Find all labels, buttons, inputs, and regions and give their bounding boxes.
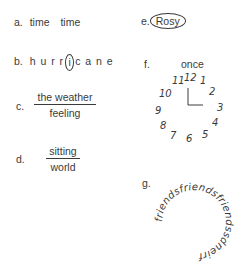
clock-number-6: 6: [186, 133, 192, 144]
clock-number-3: 3: [217, 102, 223, 113]
clock-number-1: 1: [200, 75, 206, 86]
puzzle-a-word1: time: [30, 16, 50, 28]
puzzle-c-fraction: the weather feeling: [34, 91, 96, 119]
puzzle-d-numerator: sitting: [46, 145, 80, 159]
puzzle-b-label: b.: [14, 55, 23, 67]
clock-face: 12 1 2 3 4 5 6 7 8 9 10 11: [150, 70, 235, 152]
svg-text:friendsfriendsfriendssdneirf: friendsfriendsfriendssdneirf: [153, 181, 235, 263]
clock-number-5: 5: [202, 129, 208, 140]
clock-hands: [188, 88, 203, 105]
puzzle-f-caption: once: [181, 58, 204, 70]
puzzle-f-label: f.: [144, 58, 150, 70]
puzzle-c-numerator: the weather: [34, 91, 96, 105]
word-ring: friendsfriendsfriendssdneirf: [150, 178, 239, 266]
puzzle-e-circled-word: Rosy: [150, 13, 186, 29]
puzzle-d-fraction: sitting world: [46, 145, 80, 173]
ring-text: friendsfriendsfriendssdneirf: [153, 181, 235, 263]
clock-number-10: 10: [159, 88, 172, 99]
puzzle-a-word2: time: [60, 16, 80, 28]
clock-number-7: 7: [170, 130, 177, 141]
puzzle-b: b. h u r ric a n e: [14, 54, 114, 71]
clock-number-11: 11: [172, 75, 185, 86]
clock-number-2: 2: [209, 86, 215, 97]
puzzle-b-after: c a n e: [75, 55, 114, 67]
puzzle-c-label: c.: [16, 100, 24, 112]
puzzle-e: e.Rosy: [141, 13, 186, 29]
clock-number-12: 12: [184, 72, 197, 83]
puzzle-b-circled-letter: i: [65, 54, 74, 71]
puzzle-a: a. time time: [14, 16, 80, 28]
puzzle-d-denominator: world: [46, 159, 80, 173]
clock-number-8: 8: [160, 120, 166, 131]
clock-number-4: 4: [212, 117, 218, 128]
clock-number-9: 9: [155, 105, 161, 116]
puzzle-b-before: h u r r: [30, 55, 64, 67]
puzzle-a-label: a.: [14, 16, 23, 28]
puzzle-c-denominator: feeling: [34, 105, 96, 119]
puzzle-e-label: e.: [141, 15, 150, 27]
puzzle-d-label: d.: [16, 153, 25, 165]
